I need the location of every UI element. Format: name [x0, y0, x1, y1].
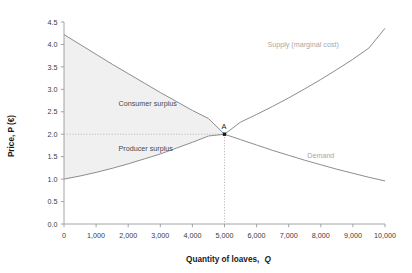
x-tick-label: 8,000: [312, 231, 330, 240]
y-tick-label: 4.0: [48, 40, 58, 49]
x-tick-label: 7,000: [280, 231, 298, 240]
producer-surplus-label: Producer surplus: [119, 144, 174, 153]
x-tick-label: 6,000: [248, 231, 266, 240]
y-axis-ticks: [61, 22, 64, 224]
x-tick-label: 0: [62, 231, 66, 240]
x-tick-label: 4,000: [183, 231, 201, 240]
y-tick-label: 4.5: [48, 18, 58, 27]
x-tick-label: 5,000: [216, 231, 234, 240]
x-tick-label: 3,000: [151, 231, 169, 240]
demand-curve-label: Demand: [307, 151, 334, 160]
y-tick-label: 2.0: [48, 130, 58, 139]
x-axis-title-variable: Q: [265, 255, 272, 264]
y-tick-label: 1.5: [48, 152, 58, 161]
supply-curve-label: Supply (marginal cost): [267, 40, 339, 49]
equilibrium-point-label: A: [222, 122, 227, 131]
x-tick-label: 10,000: [374, 231, 396, 240]
y-axis-title: Price, P (€): [7, 115, 16, 157]
x-axis-title-text: Quantity of loaves,: [186, 255, 259, 264]
y-tick-label: 1.0: [48, 175, 58, 184]
y-tick-label: 2.5: [48, 107, 58, 116]
equilibrium-point-marker: [223, 133, 226, 136]
y-tick-label: 3.5: [48, 63, 58, 72]
y-tick-label: 0.0: [48, 220, 58, 229]
x-tick-label: 2,000: [119, 231, 137, 240]
y-tick-label: 3.0: [48, 85, 58, 94]
consumer-surplus-label: Consumer surplus: [119, 99, 178, 108]
x-axis-tick-labels: 01,0002,0003,0004,0005,0006,0007,0008,00…: [62, 231, 396, 240]
x-axis-ticks: [64, 224, 385, 227]
x-tick-label: 1,000: [87, 231, 105, 240]
producer-surplus-region: [64, 134, 225, 179]
chart-canvas: 0.00.51.01.52.02.53.03.54.04.5 01,0002,0…: [0, 0, 412, 273]
x-axis-title: Quantity of loaves, Q: [186, 255, 272, 264]
x-tick-label: 9,000: [344, 231, 362, 240]
y-axis-tick-labels: 0.00.51.01.52.02.53.03.54.04.5: [48, 18, 58, 229]
y-tick-label: 0.5: [48, 197, 58, 206]
supply-demand-chart-figure: 0.00.51.01.52.02.53.03.54.04.5 01,0002,0…: [0, 0, 412, 273]
